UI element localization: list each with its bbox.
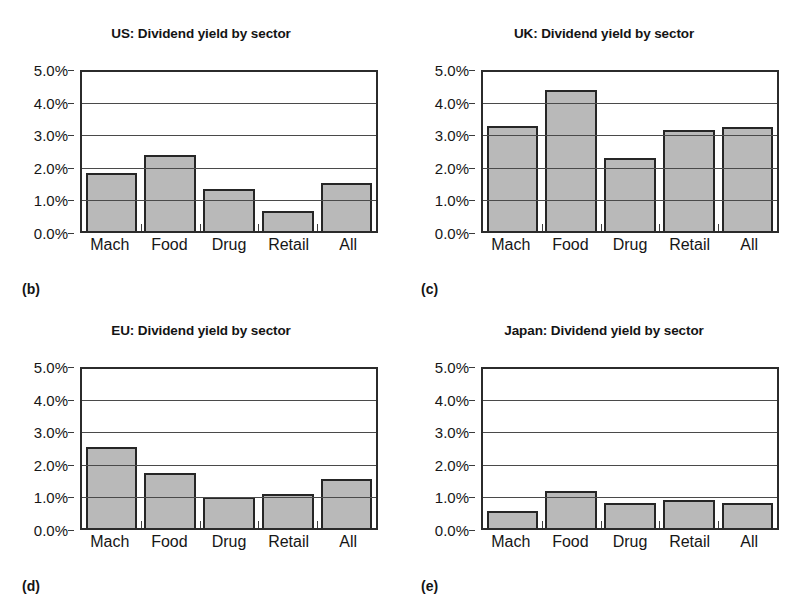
y-axis-tick-label: 3.0% <box>34 424 68 441</box>
bar-slot <box>258 72 317 231</box>
x-axis-labels: MachFoodDrugRetailAll <box>481 533 779 559</box>
y-axis-tick-mark <box>68 168 74 169</box>
x-axis-labels: MachFoodDrugRetailAll <box>80 236 378 262</box>
gridline <box>82 432 376 433</box>
bar-group <box>82 369 376 528</box>
y-axis-tick-label: 1.0% <box>34 489 68 506</box>
bar-slot <box>542 72 601 231</box>
x-axis-category-label: Retail <box>660 236 720 254</box>
chart-title: Japan: Dividend yield by sector <box>403 323 805 338</box>
y-axis-tick-label: 3.0% <box>435 127 469 144</box>
bar <box>86 447 138 528</box>
bar <box>545 90 597 232</box>
y-axis-tick-mark <box>68 465 74 466</box>
y-axis-tick-mark <box>68 135 74 136</box>
x-axis-category-label: All <box>719 533 779 551</box>
y-axis-tick-label: 0.0% <box>435 522 469 539</box>
bar <box>722 127 774 231</box>
bar-slot <box>601 72 660 231</box>
plot-area <box>80 70 378 233</box>
chart-panel-japan: Japan: Dividend yield by sector 0.0%1.0%… <box>403 297 805 594</box>
gridline <box>483 135 777 136</box>
y-axis-tick-label: 1.0% <box>435 489 469 506</box>
bar-slot <box>141 369 200 528</box>
y-axis-tick-label: 4.0% <box>435 391 469 408</box>
bar-slot <box>82 369 141 528</box>
y-axis-labels: 0.0%1.0%2.0%3.0%4.0%5.0% <box>403 367 475 530</box>
panel-label: (e) <box>421 578 438 594</box>
x-axis-category-label: All <box>318 236 378 254</box>
chart-title: UK: Dividend yield by sector <box>403 26 805 41</box>
bar <box>604 158 656 231</box>
gridline <box>483 432 777 433</box>
bar-slot <box>483 72 542 231</box>
y-axis-tick-mark <box>68 233 74 234</box>
bar-slot <box>82 72 141 231</box>
gridline <box>82 103 376 104</box>
x-axis-category-label: Food <box>541 533 601 551</box>
bar-slot <box>141 72 200 231</box>
plot-area <box>481 70 779 233</box>
gridline <box>483 400 777 401</box>
x-axis-category-label: Food <box>140 533 200 551</box>
bar <box>321 183 373 231</box>
x-axis-category-label: Retail <box>259 533 319 551</box>
y-axis-tick-mark <box>469 530 475 531</box>
x-axis-category-label: Drug <box>600 533 660 551</box>
bar <box>722 503 774 528</box>
gridline <box>483 497 777 498</box>
x-axis-category-label: All <box>719 236 779 254</box>
bar-group <box>82 72 376 231</box>
chart-title: EU: Dividend yield by sector <box>0 323 402 338</box>
gridline <box>82 400 376 401</box>
y-axis-tick-mark <box>469 70 475 71</box>
bar <box>86 173 138 231</box>
bar <box>144 155 196 231</box>
x-axis-category-label: Mach <box>80 236 140 254</box>
y-axis-tick-mark <box>68 432 74 433</box>
chart-panel-us: US: Dividend yield by sector 0.0%1.0%2.0… <box>0 0 402 297</box>
panel-label: (d) <box>22 578 40 594</box>
gridline <box>82 135 376 136</box>
y-axis-tick-label: 1.0% <box>435 192 469 209</box>
x-axis-category-label: Mach <box>80 533 140 551</box>
bar <box>262 211 314 231</box>
gridline <box>82 168 376 169</box>
y-axis-tick-mark <box>469 465 475 466</box>
y-axis-tick-mark <box>68 400 74 401</box>
x-axis-labels: MachFoodDrugRetailAll <box>481 236 779 262</box>
bar-group <box>483 369 777 528</box>
bar-slot <box>200 72 259 231</box>
y-axis-tick-label: 0.0% <box>435 225 469 242</box>
bar <box>203 497 255 528</box>
bar <box>604 503 656 528</box>
x-axis-category-label: Mach <box>481 533 541 551</box>
y-axis-tick-label: 0.0% <box>34 522 68 539</box>
y-axis-tick-label: 2.0% <box>435 159 469 176</box>
bar-slot <box>483 369 542 528</box>
x-axis-category-label: All <box>318 533 378 551</box>
bar <box>321 479 373 528</box>
x-axis-category-label: Drug <box>199 236 259 254</box>
y-axis-labels: 0.0%1.0%2.0%3.0%4.0%5.0% <box>0 367 74 530</box>
x-axis-category-label: Food <box>140 236 200 254</box>
plot-area <box>481 367 779 530</box>
gridline <box>82 465 376 466</box>
bar <box>663 130 715 231</box>
y-axis-tick-mark <box>469 168 475 169</box>
gridline <box>483 168 777 169</box>
bar <box>487 511 539 528</box>
gridline <box>82 497 376 498</box>
bar <box>663 500 715 528</box>
y-axis-tick-mark <box>68 530 74 531</box>
y-axis-tick-label: 2.0% <box>34 456 68 473</box>
bar-slot <box>542 369 601 528</box>
bar-slot <box>718 369 777 528</box>
x-axis-labels: MachFoodDrugRetailAll <box>80 533 378 559</box>
panel-label: (c) <box>421 281 438 297</box>
y-axis-tick-label: 5.0% <box>34 359 68 376</box>
y-axis-tick-label: 5.0% <box>435 62 469 79</box>
panel-label: (b) <box>22 281 40 297</box>
bar-slot <box>258 369 317 528</box>
x-axis-category-label: Mach <box>481 236 541 254</box>
